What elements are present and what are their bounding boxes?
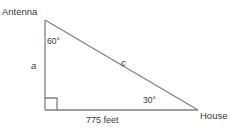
- angle-label-antenna: 60°: [47, 37, 60, 46]
- angle-label-house: 30°: [143, 96, 156, 105]
- right-angle-marker-icon: [45, 98, 57, 110]
- diagram-canvas: Antenna House 60° 30° a c 775 feet: [0, 0, 230, 136]
- side-label-a: a: [31, 61, 36, 71]
- vertex-label-antenna: Antenna: [2, 7, 37, 17]
- vertex-label-house: House: [200, 111, 227, 121]
- side-label-c: c: [121, 58, 126, 68]
- side-label-base-measurement: 775 feet: [86, 116, 119, 125]
